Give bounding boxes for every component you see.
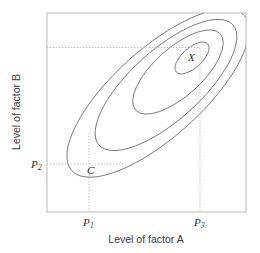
y-tick-labels: P 2 [30,158,42,172]
y-tick-p2-base: P [30,158,38,170]
plot-canvas: X C P 1 P 3 P 2 Level of factor A Level … [0,0,260,253]
annotation-label-c: C [87,164,95,176]
contour-group [42,0,260,203]
x-tick-labels: P 1 P 3 [82,216,205,230]
x-tick-p1-sub: 1 [90,221,94,230]
x-axis-title: Level of factor A [108,233,183,245]
annotation-label-x: X [187,51,196,63]
x-tick-p3-sub: 3 [200,221,205,230]
x-tick-p3-base: P [193,216,201,228]
x-tick-p1-base: P [82,216,90,228]
contour-plot-figure: X C P 1 P 3 P 2 Level of factor A Level … [0,0,260,253]
contour-level-3 [76,0,257,171]
contour-level-4 [42,0,260,203]
y-tick-p2-sub: 2 [38,163,42,172]
plot-frame [47,13,246,212]
y-axis-title: Level of factor B [10,74,22,150]
